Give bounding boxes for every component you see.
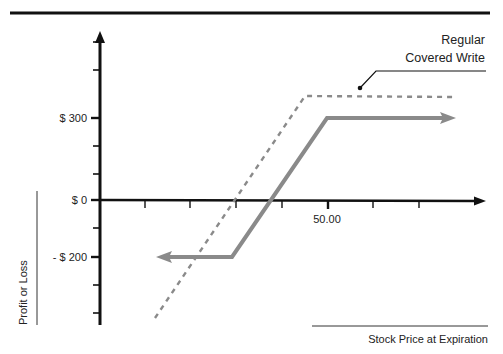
x-tick-label-50: 50.00 [313, 213, 341, 225]
legend-leader [358, 71, 486, 90]
regular-covered-write-line [155, 96, 456, 318]
strategy-payoff-line [168, 118, 444, 257]
x-ticks [145, 201, 419, 209]
legend-label-line1: Regular [441, 33, 485, 47]
payoff-chart: Regular Covered Write $ 300 $ 0 - $ 200 … [0, 0, 503, 354]
leader-dot-icon [358, 86, 363, 91]
x-axis [100, 197, 486, 210]
y-tick-label-minus-200: - $ 200 [53, 251, 87, 263]
x-axis-label: Stock Price at Expiration [368, 333, 488, 345]
y-axis [91, 31, 105, 325]
y-axis-label: Profit or Loss [17, 260, 29, 325]
x-axis-arrow-icon [474, 197, 486, 206]
y-tick-label-300: $ 300 [59, 112, 87, 124]
legend-label-line2: Covered Write [405, 51, 485, 65]
y-tick-label-0: $ 0 [72, 194, 87, 206]
